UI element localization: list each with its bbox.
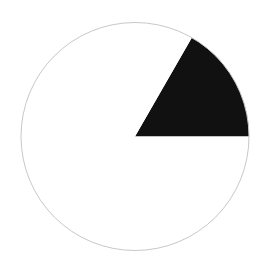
pie-slices [21, 22, 249, 250]
pie-chart [0, 0, 264, 273]
